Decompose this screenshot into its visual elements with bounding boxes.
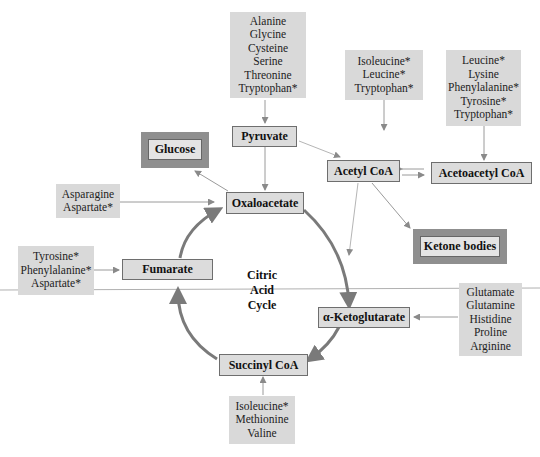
amino-acid-label: Leucine*	[345, 68, 423, 82]
amino-acid-label: Tryptophan*	[345, 82, 423, 96]
amino-acid-label: Aspartate*	[56, 201, 120, 215]
center-label-line: Citric	[236, 268, 288, 283]
amino-acids-to-alpha-ketoglutarate: Glutamate Glutamine Histidine Proline Ar…	[459, 283, 522, 356]
amino-acid-label: Tryptophan*	[230, 82, 306, 96]
amino-acid-label: Phenylalanine*	[446, 81, 521, 95]
pyruvate-node: Pyruvate	[232, 126, 297, 147]
oxaloacetate-node: Oxaloacetate	[226, 192, 304, 214]
amino-acid-label: Tyrosine*	[446, 95, 521, 109]
amino-acid-label: Methionine	[229, 413, 295, 427]
alpha-ketoglutarate-node: α-Ketoglutarate	[318, 307, 410, 328]
amino-acids-to-oxaloacetate: Asparagine Aspartate*	[56, 184, 120, 218]
amino-acids-to-fumarate: Tyrosine* Phenylalanine* Aspartate*	[18, 246, 94, 295]
amino-acid-label: Tyrosine*	[18, 250, 94, 264]
amino-acids-to-succinyl-coa: Isoleucine* Methionine Valine	[229, 396, 295, 444]
amino-acids-to-acetyl-coa: Isoleucine* Leucine* Tryptophan*	[345, 50, 423, 100]
amino-acid-label: Cysteine	[230, 42, 306, 56]
fumarate-node: Fumarate	[122, 259, 213, 280]
amino-acid-catabolism-diagram: Alanine Glycine Cysteine Serine Threonin…	[0, 0, 540, 457]
amino-acid-label: Asparagine	[56, 188, 120, 202]
amino-acid-label: Glutamine	[459, 299, 522, 313]
ketone-bodies-frame: Ketone bodies	[413, 229, 507, 264]
amino-acid-label: Phenylalanine*	[18, 264, 94, 278]
amino-acid-label: Valine	[229, 427, 295, 441]
amino-acids-to-acetoacetyl-coa: Leucine* Lysine Phenylalanine* Tyrosine*…	[446, 50, 521, 126]
glucose-frame: Glucose	[141, 132, 209, 168]
amino-acid-label: Histidine	[459, 313, 522, 327]
amino-acid-label: Leucine*	[446, 54, 521, 68]
amino-acid-label: Isoleucine*	[229, 400, 295, 414]
amino-acid-label: Aspartate*	[18, 277, 94, 291]
amino-acid-label: Glycine	[230, 28, 306, 42]
amino-acid-label: Threonine	[230, 69, 306, 83]
center-label-line: Acid	[236, 283, 288, 298]
amino-acids-to-pyruvate: Alanine Glycine Cysteine Serine Threonin…	[230, 12, 306, 98]
amino-acid-label: Alanine	[230, 15, 306, 29]
amino-acid-label: Glutamate	[459, 286, 522, 300]
citric-acid-cycle-label: Citric Acid Cycle	[236, 268, 288, 313]
amino-acid-label: Isoleucine*	[345, 55, 423, 69]
amino-acid-label: Serine	[230, 55, 306, 69]
amino-acid-label: Arginine	[459, 340, 522, 354]
amino-acid-label: Proline	[459, 326, 522, 340]
acetoacetyl-coa-node: Acetoacetyl CoA	[431, 162, 532, 184]
succinyl-coa-node: Succinyl CoA	[219, 354, 308, 376]
center-label-line: Cycle	[236, 298, 288, 313]
acetyl-coa-node: Acetyl CoA	[327, 160, 400, 182]
amino-acid-label: Tryptophan*	[446, 108, 521, 122]
amino-acid-label: Lysine	[446, 68, 521, 82]
ketone-bodies-node: Ketone bodies	[420, 236, 500, 257]
glucose-node: Glucose	[148, 139, 202, 160]
